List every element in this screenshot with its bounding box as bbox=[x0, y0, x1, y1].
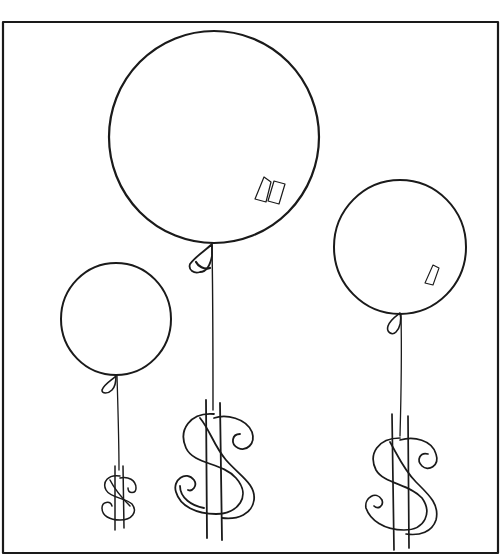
dollar-sign-medium bbox=[366, 414, 437, 550]
balloon-string-small bbox=[117, 376, 119, 470]
balloon-small-left bbox=[61, 263, 171, 530]
highlight-icon bbox=[425, 265, 439, 285]
balloon-knot-small bbox=[102, 376, 116, 393]
balloon-string-large bbox=[212, 246, 213, 410]
balloon-body-large bbox=[109, 31, 319, 243]
balloons-illustration bbox=[0, 0, 502, 558]
highlight-icon bbox=[255, 177, 285, 204]
dollar-sign-small bbox=[102, 466, 136, 530]
balloon-knot-medium bbox=[388, 313, 401, 334]
balloon-string-medium bbox=[400, 314, 401, 436]
balloon-body-medium bbox=[334, 180, 466, 314]
balloon-body-small bbox=[61, 263, 171, 375]
picture-frame bbox=[3, 22, 498, 553]
balloon-large-center bbox=[109, 31, 319, 540]
dollar-sign-large bbox=[175, 400, 254, 540]
balloon-medium-right bbox=[334, 180, 466, 550]
